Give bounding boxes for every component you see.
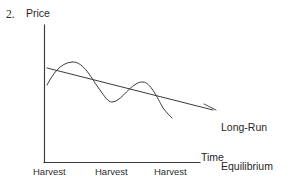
- x-tick-label-harvest-3: Harvest: [154, 167, 187, 177]
- x-tick-label-harvest-1: Harvest: [33, 167, 66, 177]
- item-number-label: 2.: [6, 8, 15, 20]
- y-axis-title: Price: [26, 8, 50, 19]
- long-run-equilibrium-annotation-line-1: Long-Run: [221, 121, 273, 134]
- long-run-equilibrium-annotation-line-2: Equilibrium: [221, 160, 273, 173]
- long-run-equilibrium-annotation: Long-Run Equilibrium: [221, 95, 273, 196]
- market-price-oscillation-curve: [47, 62, 172, 118]
- harvest-price-cycle-figure: 2. Price Time Long-Run Equilibrium Harve…: [0, 0, 293, 196]
- x-tick-label-harvest-2: Harvest: [95, 167, 128, 177]
